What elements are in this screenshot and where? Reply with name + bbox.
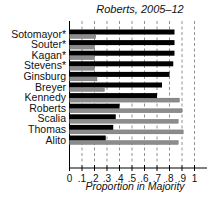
bar-gray <box>70 56 95 60</box>
bar-gray <box>70 45 95 49</box>
bar-black <box>70 40 175 45</box>
bar-black <box>70 61 174 66</box>
bar-gray <box>70 130 184 134</box>
bar-gray <box>70 98 180 102</box>
bar-black <box>70 83 163 88</box>
bar-chart: 0.1.2.3.4.5.6.7.8.91Sotomayor*Souter*Kag… <box>0 0 217 199</box>
bar-gray <box>70 141 179 145</box>
bar-black <box>70 125 114 130</box>
bar-black <box>70 30 175 35</box>
bar-black <box>70 104 120 109</box>
bar-gray <box>70 109 183 113</box>
bar-black <box>70 114 116 119</box>
bar-gray <box>70 35 96 39</box>
category-label: Alito <box>46 134 67 146</box>
x-axis-label: Proportion in Majority <box>70 180 200 192</box>
bar-gray <box>70 77 98 81</box>
bar-black <box>70 136 106 141</box>
bar-black <box>70 72 170 77</box>
bar-gray <box>70 119 179 123</box>
bar-gray <box>70 66 95 70</box>
bar-gray <box>70 88 105 92</box>
bar-black <box>70 51 175 56</box>
bar-black <box>70 93 158 98</box>
